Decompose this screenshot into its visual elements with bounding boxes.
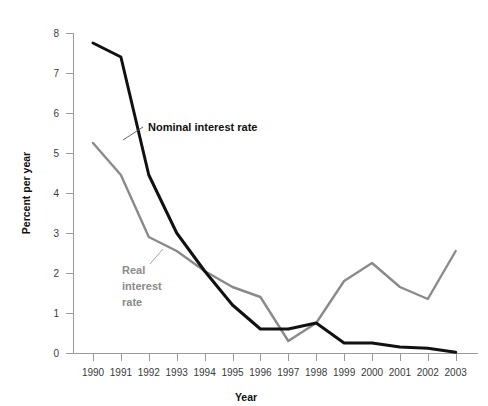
nominal-interest-rate-line: [93, 43, 456, 352]
y-tick-label-1: 1: [53, 308, 59, 319]
y-axis-title: Percent per year: [20, 152, 32, 234]
y-tick-label-2: 2: [53, 268, 59, 279]
x-tick-label-1990: 1990: [82, 367, 105, 378]
x-tick-label-2001: 2001: [389, 367, 412, 378]
y-tick-label-7: 7: [53, 68, 59, 79]
x-tick-label-1993: 1993: [166, 367, 189, 378]
x-tick-label-2000: 2000: [361, 367, 384, 378]
x-tick-label-1995: 1995: [221, 367, 244, 378]
y-tick-label-6: 6: [53, 108, 59, 119]
x-tick-label-1997: 1997: [277, 367, 300, 378]
real-series-annotation-line1: Real: [122, 264, 145, 276]
y-tick-marks: [66, 34, 74, 354]
interest-rate-line-chart: 8 7 6 5 4 3 2 1 0 1990199119921993199419…: [0, 0, 488, 406]
chart-plot-area: 8 7 6 5 4 3 2 1 0 1990199119921993199419…: [0, 0, 488, 406]
x-tick-label-1991: 1991: [110, 367, 133, 378]
x-tick-label-1992: 1992: [138, 367, 161, 378]
x-axis-title: Year: [235, 391, 257, 403]
y-tick-label-5: 5: [53, 148, 59, 159]
real-series-annotation-line3: rate: [122, 296, 142, 308]
x-tick-label-1996: 1996: [249, 367, 272, 378]
real-label-leader-line: [150, 249, 163, 264]
x-tick-label-1994: 1994: [193, 367, 216, 378]
nominal-series-annotation: Nominal interest rate: [148, 121, 257, 133]
y-tick-label-4: 4: [53, 188, 59, 199]
x-tick-marks: [94, 354, 457, 362]
real-series-annotation-line2: interest: [122, 280, 162, 292]
x-tick-label-2002: 2002: [417, 367, 440, 378]
y-tick-label-3: 3: [53, 228, 59, 239]
x-tick-label-1999: 1999: [333, 367, 356, 378]
x-tick-label-1998: 1998: [305, 367, 328, 378]
x-tick-labels: 1990199119921993199419951996199719981999…: [82, 367, 467, 378]
y-tick-label-0: 0: [53, 348, 59, 359]
y-tick-label-8: 8: [53, 28, 59, 39]
x-tick-label-2003: 2003: [445, 367, 468, 378]
